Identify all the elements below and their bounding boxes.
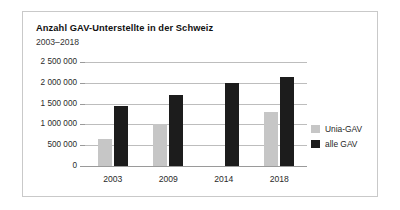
legend-item-alle: alle GAV xyxy=(311,136,373,151)
y-tick-mark xyxy=(80,104,85,105)
bar-unia-gav-2018 xyxy=(264,112,278,166)
y-axis-tick-label: 1 000 000 xyxy=(41,120,77,128)
chart-card: Anzahl GAV-Unterstellte in der Schweiz 2… xyxy=(22,11,378,197)
chart-legend: Unia-GAV alle GAV xyxy=(311,121,373,151)
y-axis-tick-label: 0 xyxy=(72,162,77,170)
x-axis-tick-label: 2018 xyxy=(270,174,289,184)
y-tick-mark xyxy=(80,124,85,125)
x-axis-tick-label: 2014 xyxy=(214,174,233,184)
y-tick-mark xyxy=(80,166,85,167)
x-axis-tick-label: 2009 xyxy=(159,174,178,184)
y-axis-tick-label: 1 500 000 xyxy=(41,99,77,107)
gridline xyxy=(85,83,307,84)
bar-alle-gav-2003 xyxy=(114,106,128,166)
bar-alle-gav-2018 xyxy=(280,77,294,166)
chart-subtitle: 2003–2018 xyxy=(36,37,79,47)
x-axis-tick-label: 2003 xyxy=(103,174,122,184)
page-title: Anzahl GAV-Unterstellte in der Schweiz xyxy=(36,23,213,33)
legend-item-unia: Unia-GAV xyxy=(311,121,373,136)
plot-area: 0500 0001 000 0001 500 0002 000 0002 500… xyxy=(85,62,307,166)
legend-label-unia: Unia-GAV xyxy=(325,124,362,134)
legend-swatch-unia-icon xyxy=(311,125,320,133)
y-tick-mark xyxy=(80,83,85,84)
y-tick-mark xyxy=(80,145,85,146)
bar-unia-gav-2009 xyxy=(153,124,167,166)
bar-alle-gav-2009 xyxy=(169,95,183,166)
legend-swatch-alle-icon xyxy=(311,140,320,148)
gridline xyxy=(85,104,307,105)
y-axis-tick-label: 2 500 000 xyxy=(41,58,77,66)
bar-unia-gav-2003 xyxy=(98,139,112,166)
axis-baseline xyxy=(85,166,307,167)
y-axis-tick-label: 500 000 xyxy=(47,141,77,149)
bar-alle-gav-2014 xyxy=(225,83,239,166)
legend-label-alle: alle GAV xyxy=(325,139,357,149)
y-axis-tick-label: 2 000 000 xyxy=(41,79,77,87)
y-tick-mark xyxy=(80,62,85,63)
gridline xyxy=(85,62,307,63)
